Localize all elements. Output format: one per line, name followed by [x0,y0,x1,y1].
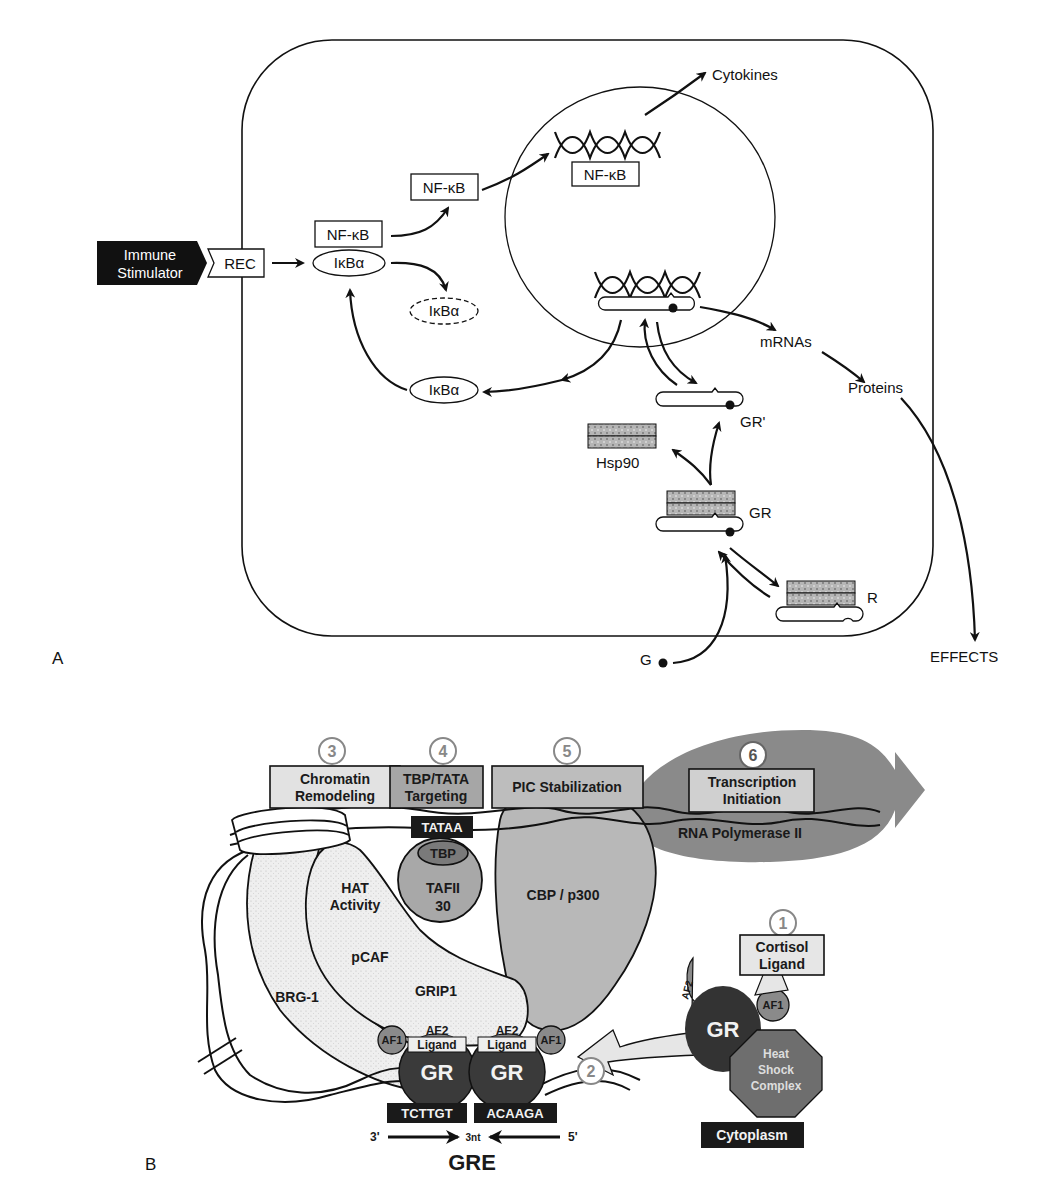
svg-text:Immune: Immune [124,247,176,263]
af1-label-right: AF1 [541,1034,562,1046]
svg-text:TBP/TATA: TBP/TATA [403,771,469,787]
rna-polymerase-label: RNA Polymerase II [678,825,802,841]
svg-text:4: 4 [439,743,448,760]
pcaf-label: pCAF [351,949,389,965]
svg-text:6: 6 [749,747,758,764]
af1-label-left: AF1 [382,1034,403,1046]
tafii-label: TAFII [426,880,460,896]
gr-label-right: GR [491,1060,524,1085]
gr-label-left: GR [421,1060,454,1085]
svg-text:Cortisol: Cortisol [756,939,809,955]
panel-b-label: B [145,1155,156,1174]
gr-complex [656,491,743,537]
brg1-label: BRG-1 [275,989,319,1005]
svg-text:2: 2 [587,1063,596,1080]
gr-nuclear-receptor [599,293,695,310]
gre-label: GRE [448,1150,496,1175]
svg-text:Chromatin: Chromatin [300,771,370,787]
svg-text:IκBα: IκBα [334,254,365,271]
gr-prime-label: GR' [740,413,766,430]
svg-text:GR: GR [707,1017,740,1042]
arrow-gr-to-r [730,548,778,586]
af2-label-right: AF2 [496,1024,519,1038]
hsp90-block [588,424,656,448]
arrow-to-proteins [822,352,864,382]
step-4-tbp-tata-targeting: 4 TBP/TATA Targeting [390,738,483,808]
r-label: R [867,589,878,606]
svg-text:NF-κB: NF-κB [423,179,466,196]
ligand-label-right: Ligand [487,1038,526,1052]
svg-text:Stimulator: Stimulator [117,265,182,281]
r-complex [776,581,863,621]
ligand-label-left: Ligand [417,1038,456,1052]
panel-a: A Immune Stimulator REC NF-κB IκBα NF-κB… [52,40,998,668]
svg-text:Targeting: Targeting [405,788,468,804]
arrow-nfkb-to-dna [482,154,548,190]
svg-text:Transcription: Transcription [708,774,797,790]
svg-text:3: 3 [328,743,337,760]
step-3-chromatin-remodeling: 3 Chromatin Remodeling [270,738,400,808]
arrow-release-hsp90 [673,450,711,485]
svg-text:AF1: AF1 [763,999,784,1011]
svg-text:Cytoplasm: Cytoplasm [716,1127,788,1143]
effects-label: EFFECTS [930,648,998,665]
svg-text:NF-κB: NF-κB [327,226,370,243]
svg-text:Heat: Heat [763,1047,789,1061]
diagram-canvas: A Immune Stimulator REC NF-κB IκBα NF-κB… [0,0,1045,1193]
svg-text:TATAA: TATAA [421,820,463,835]
mrnas-label: mRNAs [760,333,812,350]
svg-text:IκBα: IκBα [429,302,460,319]
svg-text:NF-κB: NF-κB [584,166,627,183]
cytokines-label: Cytokines [712,66,778,83]
hsp90-label: Hsp90 [596,454,639,471]
receptor-rec: REC [208,249,264,277]
dna-helix-nfkb [555,132,660,158]
svg-text:Shock: Shock [758,1063,794,1077]
three-prime-label: 3' [370,1130,380,1144]
svg-text:Ligand: Ligand [759,956,805,972]
immune-stimulator: Immune Stimulator [97,241,207,285]
arrow-to-ikba-new [484,380,562,392]
svg-text:1: 1 [779,915,788,932]
hat-activity-label: HAT [341,880,369,896]
panel-b: B [145,730,925,1175]
arrow-grprime-to-nucleus [645,320,677,385]
svg-text:30: 30 [435,898,451,914]
svg-text:TBP: TBP [430,846,456,861]
arrow-degrade-ikba [391,263,446,290]
svg-text:Complex: Complex [751,1079,802,1093]
nucleosome [232,807,350,854]
cbp-p300-label: CBP / p300 [527,887,600,903]
arrow-ikba-rebind [350,290,407,390]
svg-text:TCTTGT: TCTTGT [401,1106,452,1121]
ligand-dot-nuclear [669,304,678,313]
cell-membrane [242,40,933,636]
svg-text:Activity: Activity [330,897,381,913]
arrow-release-nfkb [391,208,448,236]
svg-text:Initiation: Initiation [723,791,781,807]
g-ligand-dot [659,659,668,668]
svg-text:Remodeling: Remodeling [295,788,375,804]
arrow-g-binding [673,555,728,663]
arrow-to-mrnas [700,307,775,330]
grip1-label: GRIP1 [415,983,457,999]
gr-label: GR [749,504,772,521]
svg-text:PIC Stabilization: PIC Stabilization [512,779,622,795]
panel-a-label: A [52,649,64,668]
af2-label-left: AF2 [426,1024,449,1038]
svg-text:5: 5 [563,743,572,760]
spacer-label: 3nt [466,1132,482,1143]
svg-text:REC: REC [224,255,256,272]
dna-helix-gr [595,272,700,298]
arrow-gr-to-grprime [710,423,719,485]
svg-text:ACAAGA: ACAAGA [486,1106,544,1121]
step-5-pic-stabilization: 5 PIC Stabilization [492,738,643,808]
five-prime-label: 5' [568,1130,578,1144]
g-ligand-label: G [640,651,652,668]
svg-text:IκBα: IκBα [429,381,460,398]
ligand-dot-grprime [726,401,735,410]
proteins-label: Proteins [848,379,903,396]
arrow-to-cytokines [645,73,705,115]
